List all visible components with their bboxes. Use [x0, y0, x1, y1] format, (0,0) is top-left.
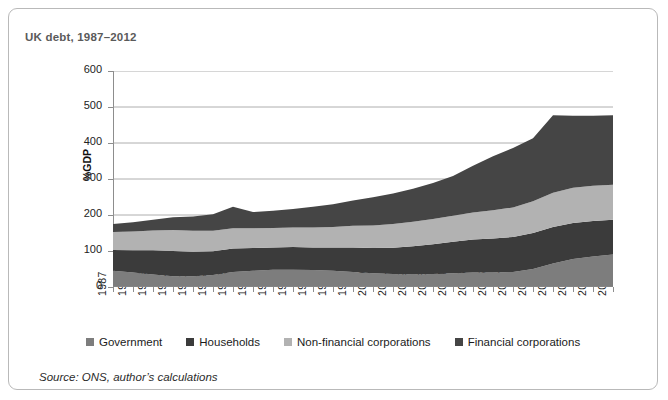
legend-item-non-financial-corporations[interactable]: Non-financial corporations [284, 336, 431, 348]
x-tick-mark-1993 [233, 287, 234, 292]
legend-label: Non-financial corporations [297, 336, 431, 348]
legend-item-financial-corporations[interactable]: Financial corporations [455, 336, 581, 348]
x-tick-mark-1998 [333, 287, 334, 292]
x-tick-mark-1994 [253, 287, 254, 292]
x-tick-mark-2002 [413, 287, 414, 292]
x-tick-mark-1988 [133, 287, 134, 292]
y-tick-label-600: 600 [58, 63, 102, 75]
x-tick-mark-2003 [433, 287, 434, 292]
x-tick-mark-2005 [473, 287, 474, 292]
plot-area [113, 71, 613, 287]
legend-item-government[interactable]: Government [86, 336, 162, 348]
x-tick-mark-1989 [153, 287, 154, 292]
legend-label: Financial corporations [468, 336, 581, 348]
legend-label: Households [199, 336, 260, 348]
legend-item-households[interactable]: Households [186, 336, 260, 348]
x-tick-mark-2001 [393, 287, 394, 292]
x-tick-label-1987: 1987 [96, 271, 108, 296]
stacked-area-svg [113, 71, 613, 287]
y-tick-label-400: 400 [58, 135, 102, 147]
x-tick-mark-2008 [533, 287, 534, 292]
x-tick-mark-1995 [273, 287, 274, 292]
x-tick-mark-1999 [353, 287, 354, 292]
x-tick-mark-1987 [113, 287, 114, 292]
x-tick-mark-1997 [313, 287, 314, 292]
y-tick-label-100: 100 [58, 243, 102, 255]
legend-swatch-icon [86, 338, 94, 346]
x-tick-mark-2009 [553, 287, 554, 292]
x-tick-mark-2007 [513, 287, 514, 292]
x-tick-mark-2006 [493, 287, 494, 292]
legend-swatch-icon [284, 338, 292, 346]
x-tick-mark-2011 [593, 287, 594, 292]
legend-swatch-icon [455, 338, 463, 346]
y-tick-label-300: 300 [58, 171, 102, 183]
chart-legend: GovernmentHouseholdsNon-financial corpor… [86, 336, 580, 348]
legend-label: Government [99, 336, 162, 348]
x-tick-mark-1992 [213, 287, 214, 292]
y-tick-label-500: 500 [58, 99, 102, 111]
x-tick-mark-1996 [293, 287, 294, 292]
x-tick-mark-1990 [173, 287, 174, 292]
legend-swatch-icon [186, 338, 194, 346]
y-tick-label-200: 200 [58, 207, 102, 219]
x-tick-mark-1991 [193, 287, 194, 292]
x-tick-mark-2000 [373, 287, 374, 292]
x-tick-mark-2010 [573, 287, 574, 292]
x-tick-mark-2012 [613, 287, 614, 292]
x-tick-mark-2004 [453, 287, 454, 292]
